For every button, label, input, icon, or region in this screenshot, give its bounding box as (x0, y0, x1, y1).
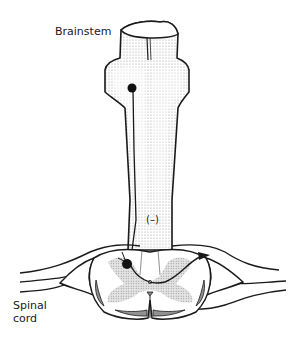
spinal-cord-label: Spinal cord (13, 299, 53, 325)
dorsal-horn-neuron-soma (122, 259, 132, 269)
diagram-canvas (0, 0, 299, 338)
brainstem-neuron-soma (128, 84, 137, 93)
brainstem-label: Brainstem (55, 25, 111, 38)
inhibition-sign-label: (–) (146, 213, 159, 226)
